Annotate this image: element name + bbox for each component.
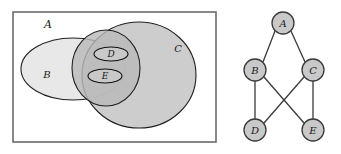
figure-canvas: A B C D E A B C (0, 0, 341, 154)
graph-node-label-A: A (278, 18, 286, 29)
set-label-E: E (101, 71, 109, 81)
graph-edge-A-C (291, 31, 305, 62)
set-ellipse-B-and-C (72, 30, 140, 106)
set-label-D: D (106, 49, 114, 59)
graph-node-label-D: D (250, 125, 259, 136)
graph-node-label-C: C (309, 65, 317, 76)
graph-diagram-panel: A B C D E (225, 0, 341, 154)
graph-diagram-svg: A B C D E (225, 0, 341, 154)
set-label-C: C (174, 43, 182, 54)
set-label-B: B (42, 69, 50, 80)
universe-label-A: A (43, 18, 52, 31)
venn-diagram-panel: A B C D E (0, 0, 225, 154)
graph-edge-A-B (263, 31, 275, 62)
graph-node-label-B: B (250, 65, 258, 76)
venn-diagram-svg: A B C D E (0, 0, 225, 154)
graph-node-label-E: E (308, 125, 317, 136)
